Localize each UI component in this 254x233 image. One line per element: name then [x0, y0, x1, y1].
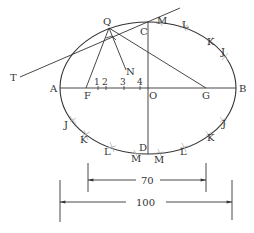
label-m-bl: M: [131, 153, 141, 164]
label-o: O: [149, 90, 157, 101]
division-2: 2: [102, 77, 108, 87]
label-t: T: [10, 72, 17, 83]
dimension-70: 70: [141, 175, 154, 186]
division-4: 4: [137, 77, 143, 87]
label-j-top: J: [220, 46, 225, 57]
ellipse-diagram: Q T C A B O F G N D 1 2 3 4 M L K J J K …: [0, 0, 254, 233]
division-3: 3: [120, 77, 126, 87]
label-b: B: [239, 83, 246, 94]
label-m-br: M: [154, 154, 164, 165]
label-k-br: K: [207, 132, 215, 143]
label-f: F: [84, 90, 91, 101]
tangent-line: [20, 8, 180, 77]
division-1: 1: [94, 77, 100, 87]
label-l-bl: L: [104, 146, 111, 157]
label-l-top: L: [182, 19, 189, 30]
label-k-top: K: [207, 36, 215, 47]
label-n: N: [126, 66, 135, 77]
label-j-br: J: [221, 118, 226, 129]
label-m-top: M: [157, 15, 167, 26]
label-j-bl: J: [63, 119, 68, 130]
normal-line-qn: [109, 28, 126, 70]
label-d: D: [139, 142, 147, 153]
label-q: Q: [103, 16, 111, 27]
label-g: G: [202, 90, 210, 101]
dimension-100: 100: [136, 197, 155, 208]
label-c: C: [140, 26, 148, 37]
label-l-br: L: [180, 146, 187, 157]
label-k-bl: K: [80, 134, 88, 145]
label-a: A: [49, 83, 58, 94]
